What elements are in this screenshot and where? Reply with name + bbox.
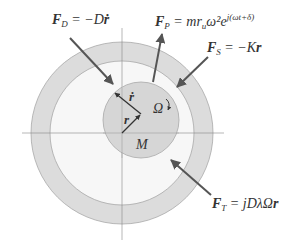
spring-force-label: FS = −Kr xyxy=(207,40,262,57)
unbalance-force-label: FP = mruω²ej(ωt+δ) xyxy=(155,12,254,31)
rotation-label: Ω xyxy=(153,101,163,117)
mass-label: M xyxy=(136,137,148,153)
rotor-diagram xyxy=(0,0,298,251)
damping-force-label: FD = −Dṙ xyxy=(52,12,109,29)
velocity-vector-label: ṙ xyxy=(129,89,134,105)
tangential-force-label: FT = jDλΩr xyxy=(212,196,278,213)
position-vector-label: r xyxy=(124,112,129,128)
